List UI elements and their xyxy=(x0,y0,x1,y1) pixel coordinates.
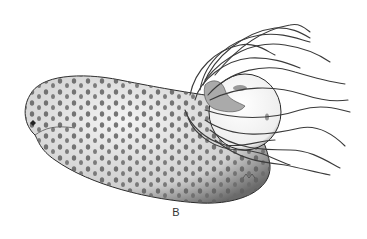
sea-cucumber-illustration xyxy=(0,0,367,239)
panel-label: B xyxy=(168,206,184,218)
